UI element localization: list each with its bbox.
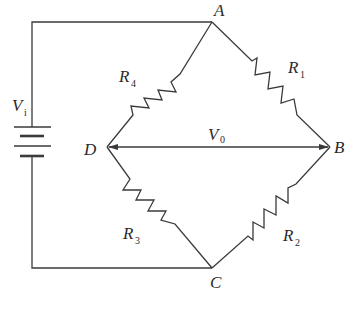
- svg-text:R: R: [122, 224, 134, 243]
- svg-text:2: 2: [295, 237, 300, 248]
- svg-text:R: R: [287, 58, 299, 77]
- wheatstone-bridge-diagram: A B C D R 4 R 1 R 3 R 2 V i V 0: [0, 0, 353, 312]
- resistor-r1: [212, 22, 330, 147]
- node-label-b: B: [334, 138, 345, 157]
- svg-text:R: R: [118, 67, 130, 86]
- resistor-label-r4: R 4: [118, 67, 136, 89]
- resistor-r2: [212, 147, 330, 268]
- node-label-d: D: [83, 140, 97, 159]
- source-wire-bottom: [32, 156, 212, 268]
- input-voltage-label: V i: [12, 96, 27, 118]
- svg-text:i: i: [24, 107, 27, 118]
- output-voltage-label: V 0: [208, 125, 225, 145]
- resistor-label-r2: R 2: [282, 226, 300, 248]
- battery-icon: [14, 127, 51, 156]
- svg-text:0: 0: [220, 134, 225, 145]
- node-label-a: A: [213, 1, 225, 20]
- node-label-c: C: [210, 273, 222, 292]
- svg-text:R: R: [282, 226, 294, 245]
- svg-text:3: 3: [135, 235, 140, 246]
- svg-text:1: 1: [300, 69, 305, 80]
- resistor-r3: [107, 147, 212, 268]
- resistor-label-r3: R 3: [122, 224, 140, 246]
- resistor-label-r1: R 1: [287, 58, 305, 80]
- svg-text:4: 4: [131, 78, 136, 89]
